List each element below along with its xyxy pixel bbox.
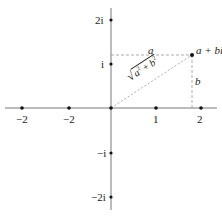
point-a-plus-bi [190,53,194,57]
complex-plane-diagram [0,0,222,222]
x-tick-label: 2 [197,114,203,125]
x-tick-label: −2 [16,114,28,125]
y-tick-label: −i [97,148,106,159]
axis-points [20,18,203,198]
y-tick-label: 2i [95,15,104,26]
y-tick-label: −2i [91,192,106,203]
y-tick-label: i [101,59,104,70]
x-tick-label: −2 [63,114,75,125]
vertical-leg-label: b [195,76,201,87]
point-label: a + bi [196,45,222,56]
x-tick-label: 1 [153,114,159,125]
